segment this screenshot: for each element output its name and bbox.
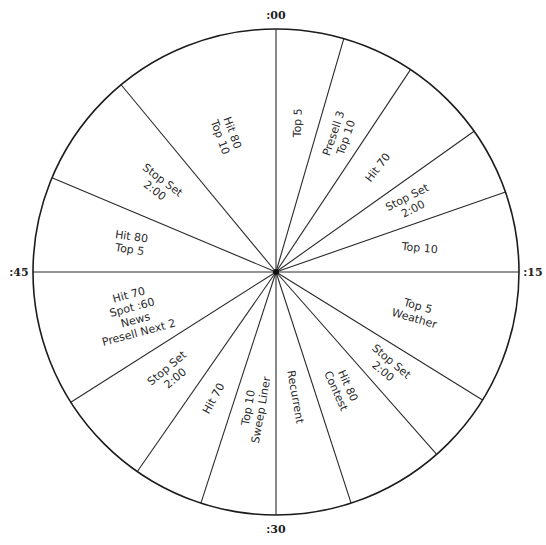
segment-divider — [276, 131, 474, 272]
segment-divider — [276, 39, 344, 272]
segment-label: Hit 70Spot :60NewsPresell Next 2 — [91, 279, 178, 349]
segment-label: Hit 70 — [200, 381, 227, 416]
seg-recurrent: Recurrent — [284, 369, 306, 425]
seg-hit80-top5: Hit 80Top 5 — [112, 228, 148, 258]
clock-hub — [273, 269, 279, 275]
segment-labels: Top 5Presell 3Top 10Hit 70Stop Set2:00To… — [91, 108, 443, 444]
segment-divider — [276, 272, 483, 400]
seg-stopset-c: Stop Set2:00 — [145, 348, 198, 398]
segment-label: Presell 3Top 10 — [320, 109, 360, 162]
segment-label: Stop Set2:00 — [361, 342, 414, 392]
segment-label: Stop Set2:00 — [145, 348, 198, 398]
segment-label: Hit 70 — [363, 151, 394, 185]
segment-label: Top 5 — [291, 108, 305, 138]
segment-label: Hit 80Top 5 — [112, 228, 148, 258]
segment-label: Top 10Sweep Liner — [236, 373, 273, 444]
seg-top5-weather: Top 5Weather — [390, 293, 442, 331]
segment-label: Hit 80Contest — [321, 364, 362, 414]
seg-presell3: Presell 3Top 10 — [320, 109, 360, 162]
seg-hit70-b: Hit 70 — [200, 381, 227, 416]
quarter-label-45: :45 — [9, 266, 28, 279]
segment-label: Top 10 — [400, 240, 438, 256]
seg-hit80-contest: Hit 80Contest — [321, 364, 362, 414]
quarter-label-15: :15 — [523, 266, 542, 279]
seg-hit70-spot: Hit 70Spot :60NewsPresell Next 2 — [91, 279, 178, 349]
segment-label: Recurrent — [284, 369, 306, 425]
quarter-label-30: :30 — [266, 523, 286, 536]
segment-label: Hit 80Top 10 — [207, 113, 244, 157]
seg-top5: Top 5 — [291, 108, 305, 138]
segment-divider — [276, 70, 410, 272]
segment-label: Top 5Weather — [390, 293, 442, 331]
segment-label: Stop Set2:00 — [132, 161, 185, 210]
seg-stopset-b: Stop Set2:00 — [361, 342, 414, 392]
seg-hit80-top10: Hit 80Top 10 — [207, 113, 244, 157]
seg-hit70-a: Hit 70 — [363, 151, 394, 185]
seg-top10-a: Top 10 — [400, 240, 438, 256]
hot-clock-wheel: Top 5Presell 3Top 10Hit 70Stop Set2:00To… — [0, 0, 546, 545]
quarter-label-00: :00 — [266, 9, 286, 22]
seg-top10-sweep: Top 10Sweep Liner — [236, 373, 273, 444]
seg-stopset-d: Stop Set2:00 — [132, 161, 185, 210]
